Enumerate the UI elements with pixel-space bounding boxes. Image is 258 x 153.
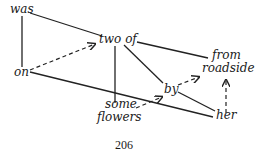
- sentence-diagram: was two of from roadside on by some flow…: [0, 0, 258, 153]
- edge-twoof-by: [124, 45, 163, 83]
- edge-on-twoof-dashed: [30, 44, 95, 70]
- diagram-canvas: was two of from roadside on by some flow…: [0, 0, 258, 153]
- word-by: by: [164, 82, 179, 96]
- edge-by-roadside-dashed: [178, 77, 199, 85]
- edge-twoof-from: [137, 42, 208, 58]
- edge-by-her: [178, 92, 215, 111]
- word-on: on: [14, 65, 29, 79]
- word-was: was: [10, 2, 34, 16]
- page-number: 206: [115, 138, 133, 152]
- word-roadside: roadside: [202, 61, 255, 75]
- word-her: her: [216, 108, 238, 122]
- word-from: from: [211, 48, 241, 62]
- word-some: some: [105, 97, 137, 111]
- edge-was-twoof: [30, 13, 102, 36]
- word-flowers: flowers: [96, 110, 142, 124]
- word-two-of: two of: [99, 32, 139, 46]
